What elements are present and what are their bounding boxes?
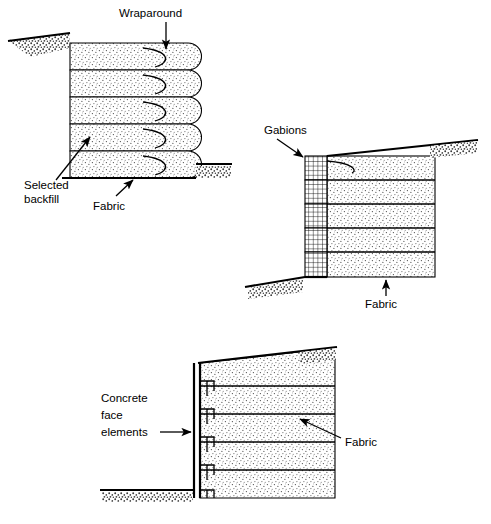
soil-layer [70,70,202,97]
gabion-upper-ground [327,140,478,158]
left-ground [8,33,70,57]
concrete-label-line1: Concrete [101,392,148,404]
gabions-label-text: Gabions [264,124,307,136]
technical-diagram: Wraparound Selected backfill Fabric [0,0,491,524]
gabion-block [305,252,327,277]
wraparound-label-text: Wraparound [119,7,182,19]
label-fabric-wraparound: Fabric [93,180,133,212]
concrete-toe-ground [100,490,194,502]
figure-canvas: Wraparound Selected backfill Fabric [0,0,491,524]
label-fabric-gabions: Fabric [365,280,397,310]
concrete-label-line3: elements [101,426,148,438]
gabions-arrow [277,139,303,157]
label-gabions: Gabions [264,124,307,157]
concrete-fabric-label-text: Fabric [345,436,377,448]
gabion-soil-mass [327,156,435,277]
gabion-column [305,156,327,277]
selected-backfill-line1: Selected [24,179,69,191]
concrete-soil-mass [200,348,335,498]
panel-concrete: Concrete face elements Fabric [100,347,377,502]
right-toe-ground [196,164,232,178]
soil-layer [70,43,202,70]
soil-layer [70,151,202,178]
soil-layer [70,97,202,124]
fabric-arrow [116,180,133,196]
panel-wraparound: Wraparound Selected backfill Fabric [8,7,232,212]
wraparound-layers [62,43,202,178]
gabion-block [305,180,327,204]
label-concrete-face-elements: Concrete face elements [101,392,191,438]
gabion-block [305,228,327,252]
gabion-fabric-label-text: Fabric [365,298,397,310]
gabion-block [305,156,327,180]
gabion-block [305,204,327,228]
concrete-label-line2: face [101,409,123,421]
fabric-label-text: Fabric [93,200,125,212]
panel-gabions: Gabions Fabric [245,124,478,310]
gabion-lower-ground [245,277,327,299]
selected-backfill-line2: backfill [24,193,59,205]
